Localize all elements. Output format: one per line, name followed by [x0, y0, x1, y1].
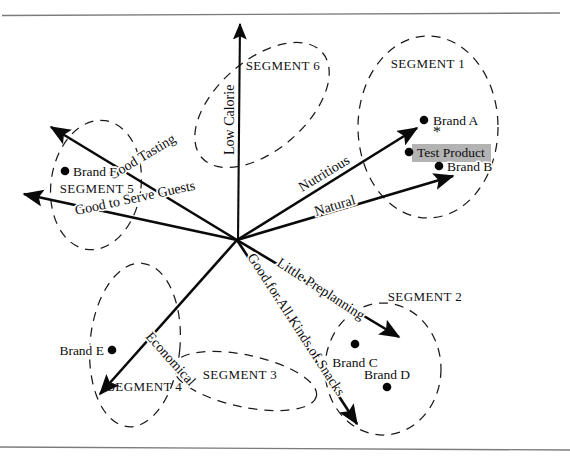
natural-label: Natural	[312, 192, 357, 219]
test-product-label: Test Product	[417, 145, 485, 160]
brand-b-dot	[435, 162, 444, 171]
brand-e-label: Brand E	[59, 343, 104, 358]
segment-2-label: SEGMENT 2	[388, 289, 463, 304]
low-calorie-vector	[238, 24, 240, 240]
attribute-vector-group	[24, 24, 453, 424]
brand-a-label: Brand A	[433, 113, 479, 128]
page-frame	[0, 13, 570, 450]
nutritious-vector	[237, 128, 417, 240]
test-product-dot	[405, 148, 414, 157]
segment-1-label: SEGMENT 1	[391, 56, 466, 71]
brand-e-dot	[108, 346, 117, 355]
brand-f-dot	[61, 167, 70, 176]
natural-label-group: NaturalNatural	[312, 192, 357, 219]
segment-6-label: SEGMENT 6	[246, 58, 321, 73]
brand-d-label: Brand D	[364, 367, 410, 382]
brand-d-dot	[383, 383, 392, 392]
brand-b-label: Brand B	[447, 159, 492, 174]
top-border-rule	[2, 13, 560, 16]
low-calorie-label-group: Low CalorieLow Calorie	[222, 85, 237, 155]
perceptual-map-canvas: SEGMENT 1SEGMENT 2SEGMENT 3SEGMENT 4SEGM…	[0, 0, 570, 458]
segment-4-label: SEGMENT 4	[108, 379, 183, 394]
perceptual-map-figure: SEGMENT 1SEGMENT 2SEGMENT 3SEGMENT 4SEGM…	[0, 0, 570, 458]
test-product-marker: Test Product*	[405, 123, 491, 162]
brand-f-label: Brand F	[73, 164, 117, 179]
low-calorie-label: Low Calorie	[222, 85, 237, 155]
brand-a-dot	[420, 116, 429, 125]
segment-3-label: SEGMENT 3	[203, 367, 278, 382]
brand-c-dot	[351, 340, 360, 349]
bottom-border-rule	[0, 447, 570, 450]
